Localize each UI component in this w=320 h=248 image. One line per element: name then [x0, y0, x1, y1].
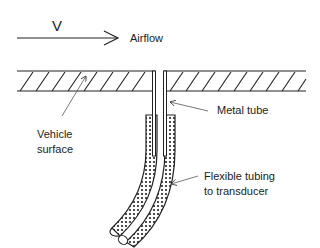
flexible-tubing-label-line2: to transducer [204, 185, 268, 198]
velocity-symbol: V [52, 17, 62, 34]
airflow-arrow [17, 31, 118, 45]
vehicle-surface-label-line2: surface [37, 143, 73, 156]
vehicle-surface-label-line1: Vehicle [37, 128, 72, 141]
metal-tube [153, 71, 167, 156]
vehicle-surface-right [164, 71, 306, 91]
flexible-tubing-leader [171, 176, 198, 184]
vehicle-surface-left [17, 71, 155, 91]
airflow-label: Airflow [130, 32, 163, 45]
flexible-tubing-label-line1: Flexible tubing [204, 170, 275, 183]
metal-tube-label: Metal tube [217, 104, 268, 117]
metal-tube-leader [170, 102, 208, 111]
